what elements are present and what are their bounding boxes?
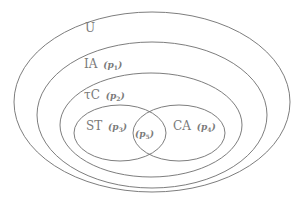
label-u: U (85, 21, 95, 35)
label-ca: CA (p4) (173, 119, 216, 133)
set-ia-boundary (37, 42, 267, 188)
label-tauc: τC (p2) (84, 88, 125, 102)
set-u-boundary (14, 12, 290, 192)
label-intersection-p5: (p5) (135, 129, 154, 140)
venn-diagram: U IA (p1) τC (p2) ST (p3) CA (p4) (p5) (0, 0, 300, 202)
label-st: ST (p3) (86, 119, 127, 133)
label-ia: IA (p1) (84, 57, 122, 71)
